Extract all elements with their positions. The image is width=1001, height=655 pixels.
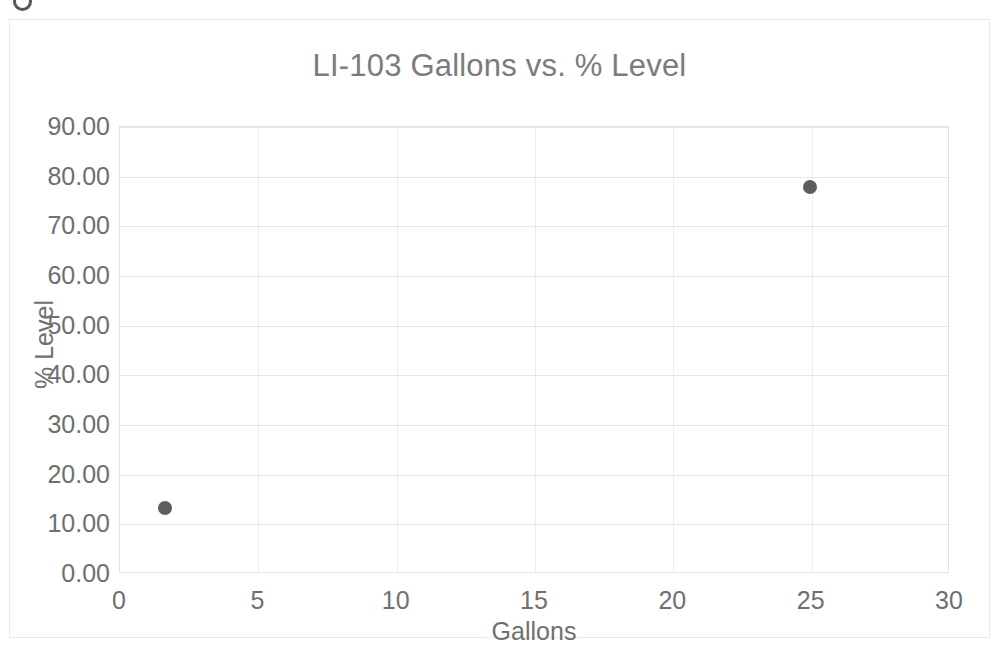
gridline-horizontal: [120, 177, 948, 178]
gridline-horizontal: [120, 375, 948, 376]
x-axis-tick-label: 30: [935, 586, 963, 615]
y-axis-tick-label: 0.00: [20, 559, 110, 588]
gridline-horizontal: [120, 276, 948, 277]
data-point-marker[interactable]: [158, 501, 172, 515]
y-axis-title: % Level: [30, 285, 59, 405]
x-axis-tick-label: 25: [797, 586, 825, 615]
cropped-glyph-fragment: [13, 0, 32, 11]
y-axis-tick-label: 80.00: [20, 161, 110, 190]
x-axis-tick-label: 20: [658, 586, 686, 615]
x-axis-title: Gallons: [119, 617, 949, 646]
x-axis-tick-labels: 051015202530: [119, 586, 949, 620]
y-axis-tick-label: 90.00: [20, 112, 110, 141]
y-axis-tick-labels: 0.0010.0020.0030.0040.0050.0060.0070.008…: [10, 126, 110, 573]
y-axis-tick-label: 30.00: [20, 410, 110, 439]
gridline-horizontal: [120, 226, 948, 227]
x-axis-tick-label: 0: [112, 586, 126, 615]
gridline-horizontal: [120, 326, 948, 327]
x-axis-tick-label: 10: [382, 586, 410, 615]
plot-area[interactable]: [119, 126, 949, 573]
data-point-marker[interactable]: [803, 180, 817, 194]
gridline-horizontal: [120, 475, 948, 476]
y-axis-tick-label: 20.00: [20, 459, 110, 488]
chart-container[interactable]: LI-103 Gallons vs. % Level 0.0010.0020.0…: [9, 19, 990, 638]
gridline-vertical: [535, 127, 536, 572]
gridline-horizontal: [120, 127, 948, 128]
gridline-horizontal: [120, 524, 948, 525]
y-axis-tick-label: 70.00: [20, 211, 110, 240]
y-axis-tick-label: 10.00: [20, 509, 110, 538]
gridline-horizontal: [120, 425, 948, 426]
gridline-vertical: [673, 127, 674, 572]
x-axis-tick-label: 15: [520, 586, 548, 615]
chart-title: LI-103 Gallons vs. % Level: [10, 48, 989, 84]
x-axis-tick-label: 5: [250, 586, 264, 615]
gridline-vertical: [397, 127, 398, 572]
gridline-vertical: [258, 127, 259, 572]
